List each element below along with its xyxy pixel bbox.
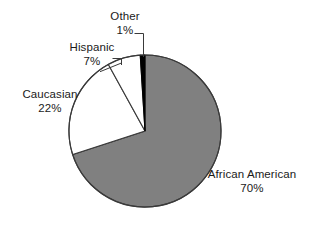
slice-label-african-american: African American 70% bbox=[197, 168, 307, 195]
slice-label-caucasian-value: 22% bbox=[8, 102, 92, 116]
slice-label-hispanic-name: Hispanic bbox=[55, 41, 129, 55]
slice-label-other-name: Other bbox=[97, 10, 153, 24]
slice-label-caucasian-name: Caucasian bbox=[8, 88, 92, 102]
slice-label-other: Other 1% bbox=[97, 10, 153, 37]
slice-label-hispanic-value: 7% bbox=[55, 55, 129, 69]
slice-label-african-american-value: 70% bbox=[197, 182, 307, 196]
slice-label-other-value: 1% bbox=[97, 24, 153, 38]
pie-chart-graphic bbox=[0, 0, 313, 231]
slice-label-african-american-name: African American bbox=[197, 168, 307, 182]
slice-label-hispanic: Hispanic 7% bbox=[55, 41, 129, 68]
slice-label-caucasian: Caucasian 22% bbox=[8, 88, 92, 115]
pie-chart-figure: Other 1% Hispanic 7% Caucasian 22% Afric… bbox=[0, 0, 313, 231]
